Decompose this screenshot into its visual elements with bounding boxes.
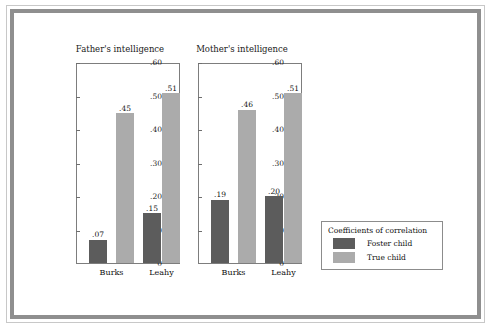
ytick-mark-050-mother [198, 97, 202, 98]
ytick-mark-060-father [76, 63, 80, 64]
bar-label-mother-burks-foster: .19 [204, 190, 236, 199]
bar-mother-leahy-true [284, 93, 302, 263]
ytick-label-040-mother: .40 [272, 126, 284, 134]
ytick-mark-010-father [76, 231, 80, 232]
bar-label-mother-burks-true: .46 [231, 100, 263, 109]
legend-label-true-child: True child [367, 253, 406, 262]
ytick-label-050-father: .50 [150, 93, 162, 101]
bar-label-father-burks-true: .45 [109, 104, 141, 113]
bar-father-leahy-foster [143, 213, 161, 263]
ytick-label-060-father: .60 [150, 59, 162, 67]
legend-title: Coefficients of correlation [328, 226, 436, 235]
ytick-mark-030-father [76, 164, 80, 165]
legend-swatch-true-child [333, 252, 355, 263]
legend-item-foster-child: Foster child [328, 238, 436, 249]
ytick-mark-020-mother [198, 197, 202, 198]
panel-title-mother: Mother's intelligence [167, 44, 317, 54]
figure-inner-frame: Father's intelligence .60 .50 .40 .30 .2… [10, 9, 481, 319]
ytick-label-050-mother: .50 [272, 93, 284, 101]
ytick-mark-050-father [76, 97, 80, 98]
ytick-label-040-father: .40 [150, 126, 162, 134]
figure-canvas: Father's intelligence .60 .50 .40 .30 .2… [18, 17, 473, 311]
bar-mother-burks-true [238, 110, 256, 263]
ytick-label-030-father: .30 [150, 160, 162, 168]
legend-swatch-foster-child [333, 238, 355, 249]
legend-item-true-child: True child [328, 252, 436, 263]
ytick-mark-040-father [76, 130, 80, 131]
bar-father-burks-foster [89, 240, 107, 263]
figure-outer-frame: Father's intelligence .60 .50 .40 .30 .2… [6, 5, 485, 323]
legend-label-foster-child: Foster child [367, 239, 412, 248]
ytick-mark-030-mother [198, 164, 202, 165]
ytick-label-020-father: .20 [150, 193, 162, 201]
ytick-mark-040-mother [198, 130, 202, 131]
bar-label-father-burks-foster: .07 [82, 230, 114, 239]
xtick-label-burks-mother: Burks [211, 268, 256, 277]
ytick-label-060-mother: .60 [272, 59, 284, 67]
ytick-mark-020-father [76, 197, 80, 198]
bar-mother-leahy-foster [265, 196, 283, 263]
bar-mother-burks-foster [211, 200, 229, 263]
ytick-label-030-mother: .30 [272, 160, 284, 168]
bar-label-mother-leahy-true: .51 [277, 84, 309, 93]
xtick-label-burks-father: Burks [89, 268, 134, 277]
chart-legend: Coefficients of correlation Foster child… [321, 221, 443, 270]
panel-mothers-intelligence: Mother's intelligence .60 .50 .40 .30 .2… [167, 18, 317, 298]
ytick-mark-060-mother [198, 63, 202, 64]
ytick-mark-010-mother [198, 231, 202, 232]
bar-father-burks-true [116, 113, 134, 263]
xtick-label-leahy-mother: Leahy [261, 268, 306, 277]
